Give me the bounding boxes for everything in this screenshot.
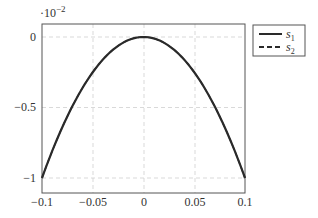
y-tick-0: 0 [30,30,36,44]
y-multiplier: ·10−2 [40,4,66,20]
legend: s1 s2 [253,25,305,56]
x-tick-0: 0 [141,195,147,209]
y-tick-neg-0.5: −0.5 [14,100,36,114]
y-tick-neg-1: −1 [23,171,36,185]
x-tick-neg-0.1: −0.1 [31,195,53,209]
x-tick-0.05: 0.05 [185,195,206,209]
x-tick-0.1: 0.1 [238,195,253,209]
x-tick-neg-0.05: −0.05 [79,195,107,209]
chart: ·10−2 0 −0.5 −1 −0.1 −0.05 0 0.05 0.1 s1… [0,0,318,218]
